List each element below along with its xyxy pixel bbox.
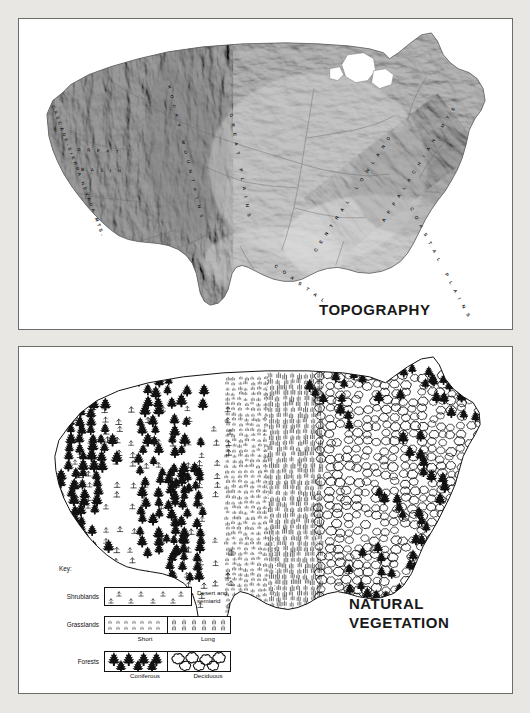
legend-caption-coniferous: Coniferous [121, 672, 169, 679]
topography-map-stage: CASCADE-SIERRA NEVADA MTS. G R E A T B A… [19, 19, 512, 329]
desert-shrub-swatch [105, 588, 191, 605]
vegetation-symbol-svg: west [19, 347, 512, 693]
legend-caption-short: Short [125, 635, 165, 642]
legend-row-forests: Forests [41, 651, 231, 672]
legend-row-grasslands: Grasslands [41, 616, 231, 634]
figure-page: CASCADE-SIERRA NEVADA MTS. G R E A T B A… [0, 0, 530, 713]
legend-label-shrublands: Shrublands [41, 593, 104, 601]
legend-key-label: Key: [59, 565, 72, 572]
legend-row-shrublands: Shrublands Desert and semiarid [41, 587, 227, 606]
topography-title: TOPOGRAPHY [319, 301, 430, 318]
vegetation-map-stage: west NATURAL VEGETATION Key: [19, 347, 512, 693]
shrub-pattern-icon [105, 588, 191, 605]
short-grass-swatch [105, 617, 167, 633]
legend-swatches-shrublands [104, 587, 192, 606]
legend-note-desert-semiarid: Desert and semiarid [197, 589, 227, 604]
vegetation-title: NATURAL VEGETATION [349, 594, 449, 632]
coniferous-swatch [105, 652, 167, 671]
legend-swatches-forests [104, 651, 231, 672]
long-grass-pattern-icon [168, 617, 230, 633]
deciduous-pattern-icon [168, 652, 230, 671]
vegetation-panel: west NATURAL VEGETATION Key: [18, 346, 513, 694]
topography-panel: CASCADE-SIERRA NEVADA MTS. G R E A T B A… [18, 18, 513, 330]
deciduous-swatch [167, 652, 230, 671]
legend-label-grasslands: Grasslands [41, 621, 104, 629]
topography-relief-svg [19, 19, 512, 329]
legend-swatches-grasslands [104, 616, 231, 634]
legend-caption-long: Long [188, 635, 228, 642]
short-grass-pattern-icon [105, 617, 167, 633]
legend-caption-deciduous: Deciduous [184, 672, 232, 679]
long-grass-swatch [167, 617, 230, 633]
legend-label-forests: Forests [41, 658, 104, 666]
conifer-pattern-icon [105, 652, 167, 671]
